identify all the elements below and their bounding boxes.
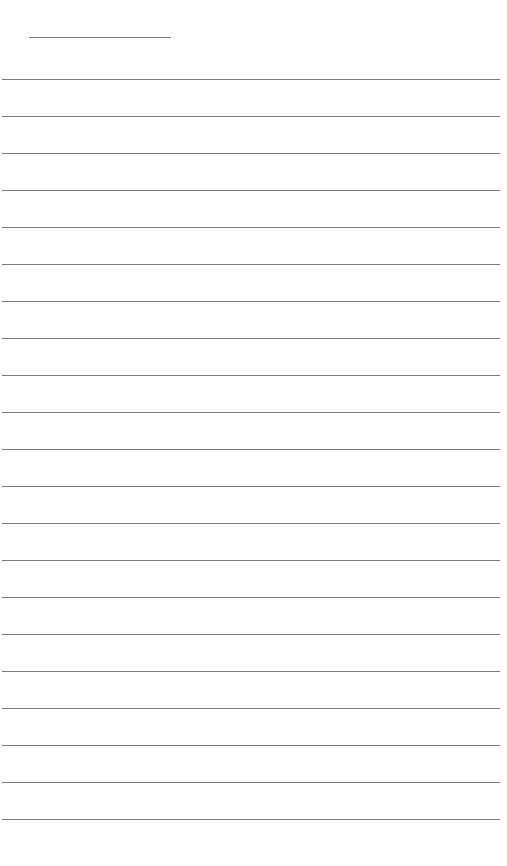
ruled-line (2, 782, 500, 783)
ruled-line (2, 634, 500, 635)
ruled-line (2, 412, 500, 413)
ruled-line (2, 301, 500, 302)
ruled-line (2, 375, 500, 376)
ruled-line (2, 264, 500, 265)
title-blank-line (29, 37, 171, 38)
ruled-line (2, 819, 500, 820)
ruled-line (2, 523, 500, 524)
ruled-line (2, 190, 500, 191)
ruled-line (2, 745, 500, 746)
ruled-line (2, 708, 500, 709)
ruled-line (2, 560, 500, 561)
ruled-line (2, 227, 500, 228)
ruled-line (2, 79, 500, 80)
ruled-line (2, 116, 500, 117)
ruled-line (2, 449, 500, 450)
ruled-line (2, 671, 500, 672)
ruled-line (2, 486, 500, 487)
ruled-line (2, 338, 500, 339)
ruled-line (2, 153, 500, 154)
ruled-line (2, 597, 500, 598)
